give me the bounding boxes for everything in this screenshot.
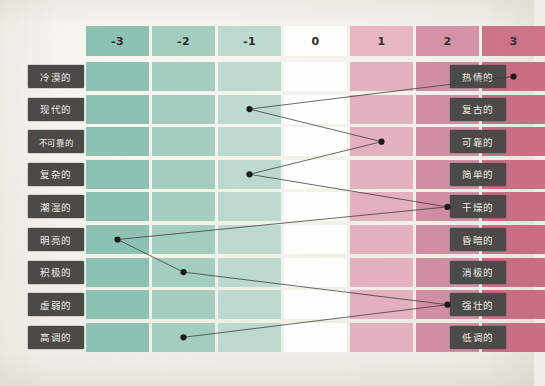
right-label-8: 低调的 bbox=[450, 326, 506, 349]
scale-cell-r6-v-3[interactable] bbox=[86, 258, 149, 287]
scale-cell-r7-v0[interactable] bbox=[284, 290, 347, 319]
scale-cell-r1-v-3[interactable] bbox=[86, 95, 149, 124]
scale-header-2[interactable]: 2 bbox=[416, 26, 479, 56]
scale-header-1[interactable]: 1 bbox=[350, 26, 413, 56]
right-label-4: 干燥的 bbox=[450, 195, 506, 218]
scale-cell-r6-v0[interactable] bbox=[284, 258, 347, 287]
left-label-1: 现代的 bbox=[28, 98, 84, 121]
scale-cell-r3-v-2[interactable] bbox=[152, 160, 215, 189]
left-label-3: 复杂的 bbox=[28, 163, 84, 186]
left-label-2: 不可靠的 bbox=[28, 130, 84, 153]
scale-cell-r1-v-2[interactable] bbox=[152, 95, 215, 124]
left-label-7: 虚弱的 bbox=[28, 293, 84, 316]
scale-cell-r8-v0[interactable] bbox=[284, 323, 347, 352]
scale-cell-r4-v0[interactable] bbox=[284, 192, 347, 221]
right-label-3: 简单的 bbox=[450, 163, 506, 186]
scale-cell-r7-v1[interactable] bbox=[350, 290, 413, 319]
right-label-6: 消极的 bbox=[450, 261, 506, 284]
left-label-5: 明亮的 bbox=[28, 228, 84, 251]
scale-cell-r0-v-2[interactable] bbox=[152, 62, 215, 91]
scale-cell-r5-v1[interactable] bbox=[350, 225, 413, 254]
scale-header--3[interactable]: -3 bbox=[86, 26, 149, 56]
scale-cell-r2-v-3[interactable] bbox=[86, 127, 149, 156]
right-label-7: 强壮的 bbox=[450, 293, 506, 316]
scale-cell-r2-v0[interactable] bbox=[284, 127, 347, 156]
left-label-4: 潮湿的 bbox=[28, 195, 84, 218]
scale-cell-r7-v-3[interactable] bbox=[86, 290, 149, 319]
left-label-6: 积极的 bbox=[28, 261, 84, 284]
right-label-0: 热情的 bbox=[450, 65, 506, 88]
scale-cell-r1-v-1[interactable] bbox=[218, 95, 281, 124]
scale-cell-r1-v1[interactable] bbox=[350, 95, 413, 124]
scale-header-0[interactable]: 0 bbox=[284, 26, 347, 56]
right-label-2: 可靠的 bbox=[450, 130, 506, 153]
scale-cell-r8-v-3[interactable] bbox=[86, 323, 149, 352]
scale-cell-r3-v-3[interactable] bbox=[86, 160, 149, 189]
scale-cell-r5-v-2[interactable] bbox=[152, 225, 215, 254]
right-label-5: 昏暗的 bbox=[450, 228, 506, 251]
right-label-1: 复古的 bbox=[450, 98, 506, 121]
scale-cell-r0-v1[interactable] bbox=[350, 62, 413, 91]
scale-cell-r4-v-2[interactable] bbox=[152, 192, 215, 221]
scale-cell-r3-v-1[interactable] bbox=[218, 160, 281, 189]
scale-header-3[interactable]: 3 bbox=[482, 26, 545, 56]
scale-header--2[interactable]: -2 bbox=[152, 26, 215, 56]
scale-cell-r4-v-1[interactable] bbox=[218, 192, 281, 221]
scale-cell-r6-v-2[interactable] bbox=[152, 258, 215, 287]
scale-cell-r7-v-2[interactable] bbox=[152, 290, 215, 319]
scale-cell-r0-v-3[interactable] bbox=[86, 62, 149, 91]
scale-cell-r2-v-2[interactable] bbox=[152, 127, 215, 156]
scale-cell-r1-v0[interactable] bbox=[284, 95, 347, 124]
scale-cell-r3-v0[interactable] bbox=[284, 160, 347, 189]
left-label-0: 冷漠的 bbox=[28, 65, 84, 88]
scale-header--1[interactable]: -1 bbox=[218, 26, 281, 56]
left-label-8: 高调的 bbox=[28, 326, 84, 349]
scale-cell-r5-v-3[interactable] bbox=[86, 225, 149, 254]
scale-cell-r2-v1[interactable] bbox=[350, 127, 413, 156]
scale-cell-r5-v-1[interactable] bbox=[218, 225, 281, 254]
scale-cell-r2-v-1[interactable] bbox=[218, 127, 281, 156]
scale-cell-r8-v-2[interactable] bbox=[152, 323, 215, 352]
scale-cell-r4-v-3[interactable] bbox=[86, 192, 149, 221]
scale-cell-r3-v1[interactable] bbox=[350, 160, 413, 189]
scale-cell-r0-v0[interactable] bbox=[284, 62, 347, 91]
scale-cell-r0-v-1[interactable] bbox=[218, 62, 281, 91]
scale-cell-r7-v-1[interactable] bbox=[218, 290, 281, 319]
scale-cell-r5-v0[interactable] bbox=[284, 225, 347, 254]
scale-cell-r8-v1[interactable] bbox=[350, 323, 413, 352]
scale-cell-r6-v1[interactable] bbox=[350, 258, 413, 287]
scale-cell-r6-v-1[interactable] bbox=[218, 258, 281, 287]
scale-cell-r8-v-1[interactable] bbox=[218, 323, 281, 352]
scale-cell-r4-v1[interactable] bbox=[350, 192, 413, 221]
